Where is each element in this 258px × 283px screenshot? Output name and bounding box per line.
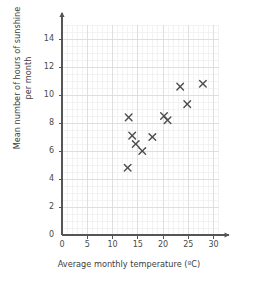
data-point	[125, 114, 132, 121]
x-axis-title: Average monthly temperature (ºC)	[0, 259, 258, 269]
y-tick-label: 2	[32, 202, 54, 211]
x-tick-label: 20	[151, 240, 175, 249]
y-axis-title-line2: per month	[23, 0, 34, 178]
data-point-markers	[124, 81, 206, 172]
x-tick-label: 25	[176, 240, 200, 249]
y-axis-title-line1: Mean number of hours of sunshine	[12, 0, 23, 178]
x-tick-label: 10	[101, 240, 125, 249]
y-axis-title: Mean number of hours of sunshine per mon…	[12, 0, 44, 178]
x-tick-label: 0	[50, 240, 74, 249]
data-point	[200, 81, 207, 88]
scatter-plot-figure: 05101520253002468101214 Mean number of h…	[0, 0, 258, 283]
y-tick-label: 0	[32, 230, 54, 239]
data-point	[164, 117, 171, 124]
x-tick-label: 30	[202, 240, 226, 249]
data-point	[129, 132, 136, 139]
x-tick-label: 5	[75, 240, 99, 249]
x-tick-label: 15	[126, 240, 150, 249]
minor-gridlines	[62, 25, 219, 235]
